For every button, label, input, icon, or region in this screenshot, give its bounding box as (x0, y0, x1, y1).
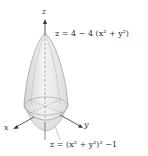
x-axis (16, 117, 34, 127)
figure: z x y z = 4 − 4 (x² + y²) z = (x² + y²)²… (0, 0, 148, 156)
leader-line (55, 126, 60, 140)
x-axis-label: x (4, 124, 9, 132)
y-axis (60, 115, 80, 126)
x-axis-arrowhead-icon (13, 125, 19, 129)
z-axis-arrowhead-icon (43, 19, 47, 24)
surfaces-drawing (0, 0, 148, 156)
z-axis-label: z (42, 8, 46, 16)
lower-surface-equation: z = (x² + y²)² −1 (50, 141, 117, 149)
upper-surface (24, 33, 68, 120)
upper-surface-equation: z = 4 − 4 (x² + y²) (55, 30, 129, 38)
y-axis-arrowhead-icon (78, 124, 83, 128)
y-axis-label: y (84, 121, 89, 129)
